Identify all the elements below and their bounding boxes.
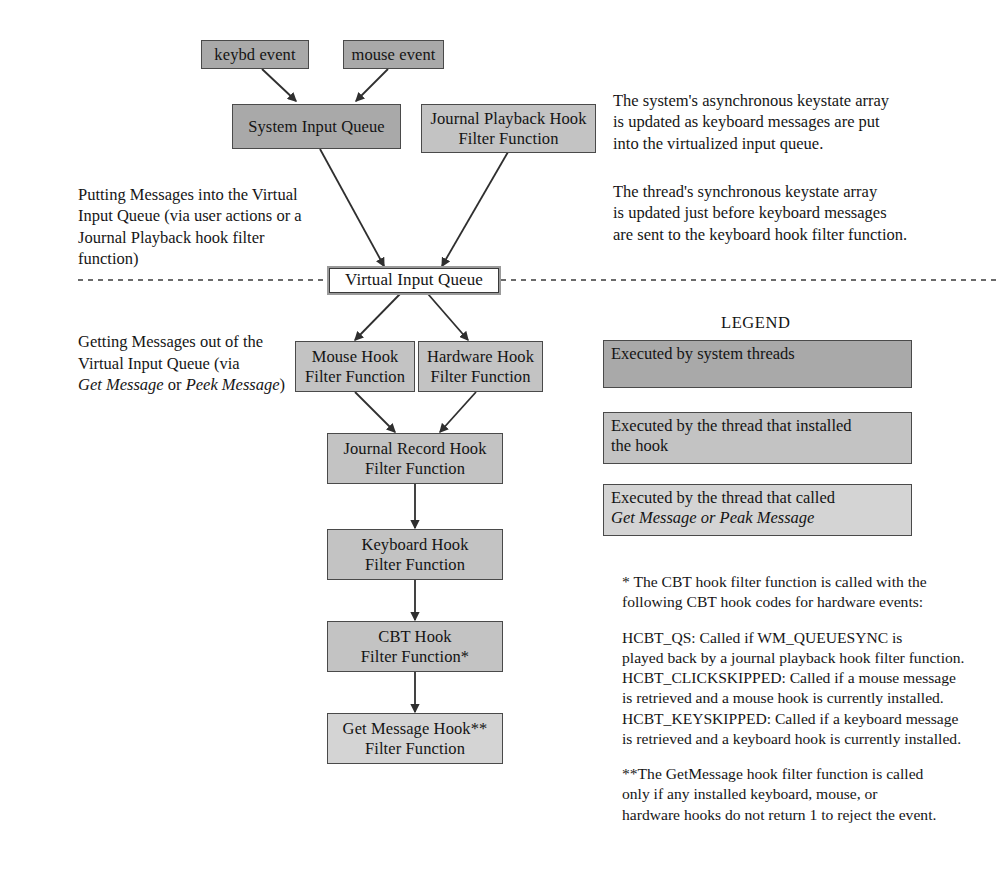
node-mouse-event[interactable]: mouse event [343, 40, 444, 69]
node-cbt-hook-line2: Filter Function* [332, 647, 498, 666]
diagram-canvas: keybd event mouse event System Input Que… [0, 0, 1006, 873]
node-cbt-hook-line1: CBT Hook [332, 627, 498, 646]
node-keybd-event-label: keybd event [206, 45, 304, 64]
node-mouse-event-label: mouse event [348, 45, 439, 64]
node-hardware-hook-line1: Hardware Hook [423, 347, 538, 366]
getting-messages-line2: Virtual Input Queue (via [78, 354, 240, 373]
node-mouse-hook-line2: Filter Function [300, 367, 410, 386]
legend-item-calling-thread-line1: Executed by the thread that called [611, 488, 905, 508]
node-keybd-event[interactable]: keybd event [201, 40, 309, 69]
annotation-async-keystate: The system's asynchronous keystate array… [613, 90, 983, 154]
node-virtual-input-queue-label: Virtual Input Queue [338, 270, 490, 290]
legend-item-system-threads: Executed by system threads [603, 340, 912, 388]
node-get-message-hook-line1: Get Message Hook** [332, 719, 498, 738]
node-journal-playback-hook-line1: Journal Playback Hook [426, 109, 591, 128]
node-hardware-hook[interactable]: Hardware Hook Filter Function [418, 341, 543, 392]
arrow-jph-to-viq [442, 152, 508, 266]
node-mouse-hook[interactable]: Mouse Hook Filter Function [295, 341, 415, 392]
getting-messages-italic-get: Get Message [78, 375, 164, 394]
node-get-message-hook[interactable]: Get Message Hook** Filter Function [327, 713, 503, 764]
arrow-viq-to-mouse [355, 294, 400, 340]
node-cbt-hook[interactable]: CBT Hook Filter Function* [327, 621, 503, 672]
legend-item-installing-thread-line1: Executed by the thread that installed [611, 416, 905, 436]
legend-item-calling-thread: Executed by the thread that called Get M… [603, 484, 912, 536]
node-hardware-hook-line2: Filter Function [423, 367, 538, 386]
arrow-mouse-to-siq [356, 69, 388, 101]
footnote-hook-codes: HCBT_QS: Called if WM_QUEUESYNC is playe… [622, 628, 1002, 750]
getting-messages-close-paren: ) [280, 375, 286, 394]
arrow-keybd-to-siq [262, 69, 296, 101]
legend-item-system-threads-label: Executed by system threads [611, 344, 905, 364]
arrow-mouse-to-jrh [355, 392, 395, 432]
legend-item-installing-thread: Executed by the thread that installed th… [603, 412, 912, 464]
arrow-viq-to-hw [428, 294, 468, 340]
node-journal-record-hook-line2: Filter Function [332, 459, 498, 478]
footnote-block: * The CBT hook filter function is called… [622, 572, 1002, 825]
legend-item-installing-thread-line2: the hook [611, 436, 905, 456]
node-system-input-queue-label: System Input Queue [237, 117, 396, 136]
node-get-message-hook-line2: Filter Function [332, 739, 498, 758]
annotation-putting-messages: Putting Messages into the Virtual Input … [78, 184, 378, 270]
node-journal-playback-hook-line2: Filter Function [426, 129, 591, 148]
getting-messages-or: or [164, 375, 186, 394]
annotation-sync-keystate: The thread's synchronous keystate array … [613, 181, 1003, 245]
node-system-input-queue[interactable]: System Input Queue [232, 104, 401, 149]
getting-messages-italic-peek: Peek Message [186, 375, 280, 394]
node-mouse-hook-line1: Mouse Hook [300, 347, 410, 366]
node-keyboard-hook-line2: Filter Function [332, 555, 498, 574]
node-keyboard-hook[interactable]: Keyboard Hook Filter Function [327, 529, 503, 580]
arrow-hw-to-jrh [440, 392, 476, 432]
getting-messages-line1: Getting Messages out of the [78, 332, 263, 351]
node-journal-record-hook[interactable]: Journal Record Hook Filter Function [327, 433, 503, 484]
legend-title: LEGEND [721, 313, 791, 333]
node-virtual-input-queue[interactable]: Virtual Input Queue [329, 268, 499, 293]
getting-messages-line3: Get Message or Peek Message) [78, 375, 285, 394]
node-journal-playback-hook[interactable]: Journal Playback Hook Filter Function [421, 104, 596, 153]
footnote-single-star: * The CBT hook filter function is called… [622, 572, 1002, 613]
node-keyboard-hook-line1: Keyboard Hook [332, 535, 498, 554]
legend-item-calling-thread-line2: Get Message or Peak Message [611, 508, 905, 528]
footnote-double-star: **The GetMessage hook filter function is… [622, 764, 1002, 825]
node-journal-record-hook-line1: Journal Record Hook [332, 439, 498, 458]
